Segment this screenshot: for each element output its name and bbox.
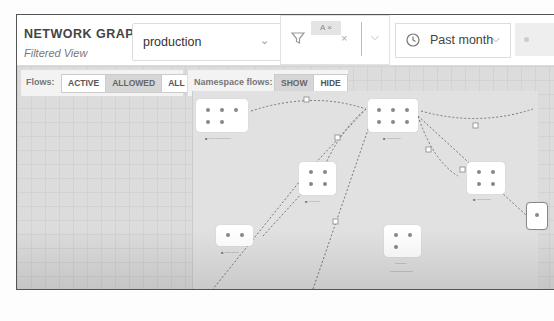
namespace-select[interactable]: production ⌄	[132, 23, 282, 61]
graph-canvas[interactable]: Flows: ACTIVE ALLOWED ALL Namespace flow…	[17, 66, 554, 289]
graph-node[interactable]	[368, 99, 418, 132]
node-label: ■ ────	[305, 199, 320, 204]
time-range-value: Past month	[430, 33, 493, 47]
namespace-flows-label: Namespace flows:	[194, 77, 273, 87]
ns-flows-hide-button[interactable]: HIDE	[314, 75, 346, 92]
graph-node[interactable]	[299, 162, 336, 195]
divider	[16, 289, 553, 290]
page-subtitle: Filtered View	[24, 47, 87, 59]
flows-allowed-button[interactable]: ALLOWED	[106, 75, 162, 92]
network-graph-panel: NETWORK GRAPH Filtered View production ⌄…	[16, 14, 554, 290]
chevron-down-icon: ⌄	[260, 34, 269, 47]
filter-chip[interactable]: A ×	[311, 21, 341, 35]
page-title: NETWORK GRAPH	[24, 27, 144, 41]
filter-input[interactable]: A × × ⌵	[280, 15, 390, 65]
flows-toggle[interactable]: ACTIVE ALLOWED ALL	[61, 74, 192, 93]
namespace-value: production	[143, 35, 201, 49]
clear-filter-icon[interactable]: ×	[341, 32, 347, 44]
dot-icon	[524, 37, 529, 42]
node-label: ■ ─────	[383, 136, 401, 141]
ns-flows-show-button[interactable]: SHOW	[275, 75, 314, 92]
flows-active-button[interactable]: ACTIVE	[62, 75, 106, 92]
graph-node[interactable]	[467, 162, 505, 194]
canvas-shade	[17, 229, 554, 289]
chevron-down-icon[interactable]: ⌵	[371, 31, 379, 43]
filter-icon	[291, 31, 305, 45]
chevron-down-icon: ⌵	[492, 33, 500, 45]
chip-remove-icon[interactable]: ×	[327, 23, 332, 32]
flows-toolbar: Flows: ACTIVE ALLOWED ALL	[20, 69, 184, 97]
more-button[interactable]	[515, 23, 554, 56]
clock-icon	[406, 33, 420, 47]
header: NETWORK GRAPH Filtered View production ⌄…	[17, 15, 554, 66]
node-label: ■ ─────	[473, 197, 491, 202]
time-range-select[interactable]: Past month ⌵	[395, 23, 511, 58]
graph-node[interactable]	[196, 99, 248, 132]
divider	[361, 22, 362, 56]
flows-label: Flows:	[26, 77, 55, 87]
node-label: ■ ────────	[205, 136, 231, 141]
graph-node[interactable]	[526, 202, 548, 230]
